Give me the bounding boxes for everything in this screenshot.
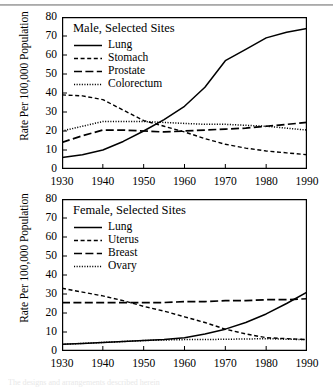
x-tick-label: 1930	[51, 176, 74, 188]
legend-label: Stomach	[108, 52, 148, 64]
legend-item-prostate: Prostate	[73, 65, 175, 78]
legend-item-lung: Lung	[73, 221, 186, 234]
legend-item-lung: Lung	[73, 39, 175, 52]
y-tick-label: 50	[46, 250, 58, 262]
x-tick-label: 1990	[296, 358, 319, 370]
legend-item-ovary: Ovary	[73, 260, 186, 273]
chart-panel-male: Rate Per 100,000 Population 010203040506…	[0, 10, 333, 192]
legend-line-sample-icon	[73, 260, 103, 272]
y-tick-label: 40	[46, 87, 58, 99]
legend-item-breast: Breast	[73, 247, 186, 260]
y-tick-label: 20	[46, 125, 58, 137]
plot-area-male: 01020304050607080 1930194019501960197019…	[62, 17, 307, 169]
x-tick-label: 1930	[51, 358, 74, 370]
series-line-ovary	[62, 339, 307, 345]
y-tick-label: 30	[46, 288, 58, 300]
legend-line-sample-icon	[73, 234, 103, 246]
figure-cancer-mortality-trends: Rate Per 100,000 Population 010203040506…	[0, 0, 333, 390]
legend-label: Lung	[108, 221, 132, 233]
legend-label: Breast	[108, 247, 137, 259]
x-tick-label: 1980	[255, 358, 278, 370]
y-tick-label: 80	[46, 193, 58, 205]
legend-title-male: Male, Selected Sites	[73, 22, 175, 35]
series-line-uterus	[62, 288, 307, 339]
figure-top-rule	[0, 4, 333, 6]
legend-line-sample-icon	[73, 39, 103, 51]
y-tick-label: 70	[46, 30, 58, 42]
series-line-stomach	[62, 95, 307, 155]
legend-title-female: Female, Selected Sites	[73, 204, 186, 217]
x-tick-label: 1950	[132, 176, 155, 188]
y-tick-label: 0	[51, 345, 57, 357]
x-tick-label: 1980	[255, 176, 278, 188]
legend-female: Female, Selected Sites LungUterusBreastO…	[73, 204, 186, 273]
legend-item-colorectum: Colorectum	[73, 78, 175, 91]
legend-line-sample-icon	[73, 52, 103, 64]
x-tick-label: 1940	[91, 176, 114, 188]
legend-label: Ovary	[108, 260, 137, 272]
y-tick-label: 10	[46, 326, 58, 338]
legend-label: Lung	[108, 39, 132, 51]
legend-line-sample-icon	[73, 247, 103, 259]
chart-panel-female: Rate Per 100,000 Population 010203040506…	[0, 192, 333, 374]
legend-label: Uterus	[108, 234, 139, 246]
legend-line-sample-icon	[73, 65, 103, 77]
legend-line-sample-icon	[73, 78, 103, 90]
y-tick-label: 60	[46, 231, 58, 243]
y-tick-label: 20	[46, 307, 58, 319]
y-axis-label-male: Rate Per 100,000 Population	[18, 0, 30, 156]
x-tick-label: 1970	[214, 176, 237, 188]
series-line-breast	[62, 299, 307, 303]
figure-caption: The designs and arrangements described h…	[8, 379, 328, 389]
series-line-prostate	[62, 122, 307, 142]
legend-items-female: LungUterusBreastOvary	[73, 221, 186, 273]
legend-male: Male, Selected Sites LungStomachProstate…	[73, 22, 175, 91]
x-tick-label: 1950	[132, 358, 155, 370]
y-tick-label: 50	[46, 68, 58, 80]
legend-item-uterus: Uterus	[73, 234, 186, 247]
legend-label: Prostate	[108, 65, 145, 77]
x-tick-label: 1990	[296, 176, 319, 188]
plot-area-female: 01020304050607080 1930194019501960197019…	[62, 199, 307, 351]
y-tick-label: 60	[46, 49, 58, 61]
x-tick-label: 1970	[214, 358, 237, 370]
legend-line-sample-icon	[73, 221, 103, 233]
y-tick-label: 40	[46, 269, 58, 281]
legend-label: Colorectum	[108, 78, 162, 90]
x-tick-label: 1940	[91, 358, 114, 370]
y-tick-label: 0	[51, 163, 57, 175]
legend-items-male: LungStomachProstateColorectum	[73, 39, 175, 91]
y-tick-label: 70	[46, 212, 58, 224]
x-tick-label: 1960	[173, 176, 196, 188]
y-tick-label: 80	[46, 11, 58, 23]
y-axis-label-female: Rate Per 100,000 Population	[18, 178, 30, 338]
y-tick-label: 30	[46, 106, 58, 118]
legend-item-stomach: Stomach	[73, 52, 175, 65]
y-tick-label: 10	[46, 144, 58, 156]
x-tick-label: 1960	[173, 358, 196, 370]
